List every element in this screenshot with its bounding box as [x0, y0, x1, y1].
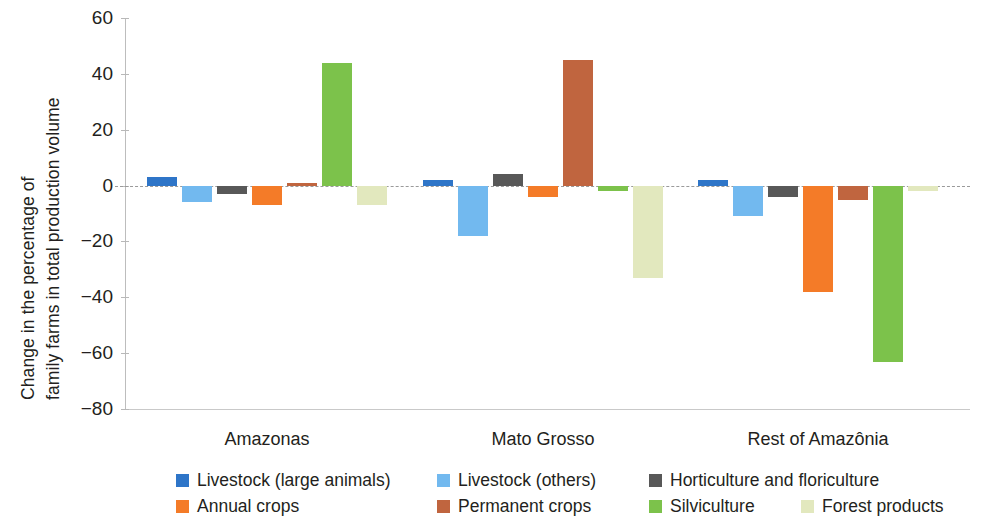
legend-item-label: Horticulture and floriculture	[670, 470, 879, 490]
legend-item-label: Silviculture	[670, 496, 755, 516]
bar	[733, 186, 763, 217]
y-axis-tick-label: −20	[57, 231, 113, 250]
bar	[493, 174, 523, 185]
y-axis-tick-label: −80	[57, 399, 113, 418]
x-axis-category-label: Amazonas	[147, 428, 387, 450]
y-axis-tick-mark	[121, 409, 129, 410]
y-axis-tick-mark	[121, 18, 129, 19]
legend-color-swatch-icon	[649, 500, 662, 513]
y-axis-tick-label: 20	[57, 120, 113, 139]
bar	[357, 186, 387, 206]
bar	[217, 186, 247, 194]
bar	[598, 186, 628, 192]
y-axis-tick-mark	[121, 74, 129, 75]
legend-color-swatch-icon	[176, 474, 189, 487]
bar	[908, 186, 938, 192]
x-axis-line	[125, 409, 970, 410]
bar-chart-figure: Change in the percentage of family farms…	[0, 0, 986, 523]
legend-item-label: Livestock (large animals)	[197, 470, 391, 490]
bar	[287, 183, 317, 186]
legend-color-swatch-icon	[649, 474, 662, 487]
y-axis-tick-label: 0	[57, 176, 113, 195]
legend-color-swatch-icon	[801, 500, 814, 513]
legend-color-swatch-icon	[437, 474, 450, 487]
bar	[803, 186, 833, 292]
legend-item[interactable]: Forest products	[801, 496, 944, 516]
bar	[252, 186, 282, 206]
bar	[768, 186, 798, 197]
y-axis-title: Change in the percentage of family farms…	[0, 0, 60, 420]
bar	[423, 180, 453, 186]
y-axis-tick-label: 60	[57, 8, 113, 27]
bar	[633, 186, 663, 278]
bar	[147, 177, 177, 185]
x-axis-category-label: Mato Grosso	[423, 428, 663, 450]
legend-item[interactable]: Silviculture	[649, 496, 755, 516]
y-axis-tick-label: −40	[57, 287, 113, 306]
bar	[182, 186, 212, 203]
bar	[458, 186, 488, 236]
y-axis-tick-mark	[121, 130, 129, 131]
legend-item-label: Annual crops	[197, 496, 299, 516]
bar	[698, 180, 728, 186]
bar	[528, 186, 558, 197]
y-axis-tick-mark	[121, 297, 129, 298]
bar	[322, 63, 352, 186]
bar	[563, 60, 593, 186]
legend-item-label: Forest products	[822, 496, 944, 516]
legend-item[interactable]: Livestock (large animals)	[176, 470, 391, 490]
y-axis-tick-label: −60	[57, 343, 113, 362]
y-axis-line	[125, 18, 126, 409]
bar	[873, 186, 903, 362]
y-axis-tick-mark	[121, 241, 129, 242]
plot-area	[125, 18, 970, 409]
y-axis-tick-label: 40	[57, 64, 113, 83]
chart-legend: Livestock (large animals)Livestock (othe…	[176, 470, 976, 522]
legend-item-label: Livestock (others)	[458, 470, 596, 490]
legend-item[interactable]: Livestock (others)	[437, 470, 596, 490]
legend-item[interactable]: Annual crops	[176, 496, 299, 516]
legend-color-swatch-icon	[176, 500, 189, 513]
bar	[838, 186, 868, 200]
y-axis-title-line-1: Change in the percentage of	[16, 176, 41, 400]
legend-item[interactable]: Horticulture and floriculture	[649, 470, 879, 490]
legend-item-label: Permanent crops	[458, 496, 591, 516]
legend-color-swatch-icon	[437, 500, 450, 513]
y-axis-tick-mark	[121, 353, 129, 354]
x-axis-category-label: Rest of Amazônia	[698, 428, 938, 450]
legend-item[interactable]: Permanent crops	[437, 496, 591, 516]
